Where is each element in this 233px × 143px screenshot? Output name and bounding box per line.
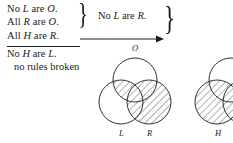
- venn-label-L: L: [119, 129, 124, 138]
- grouping-brace-premises: }: [78, 0, 88, 28]
- premise-2-text: All R are O.: [7, 16, 59, 27]
- venn-diagram-right: H: [192, 44, 233, 143]
- venn-label-R: R: [147, 129, 152, 138]
- venn-label-O: O: [132, 44, 138, 53]
- conclusion-text: No H are L.: [7, 47, 57, 60]
- no-rules-broken-note: no rules broken: [14, 60, 79, 73]
- premise-3-text: All H are R.: [7, 30, 59, 41]
- figure-canvas: No L are O. All R are O. All H are R. No…: [0, 0, 233, 143]
- grouping-brace-derived: }: [164, 2, 175, 35]
- venn-right-svg: [192, 44, 233, 143]
- venn-left-svg: [96, 44, 174, 143]
- venn-label-H: H: [215, 129, 221, 138]
- venn-region-R-only: [96, 44, 174, 143]
- premise-1-text: No L are O.: [7, 3, 58, 14]
- venn-diagram-left: O L R: [96, 44, 174, 143]
- derived-statement-text: No L are R.: [98, 9, 146, 22]
